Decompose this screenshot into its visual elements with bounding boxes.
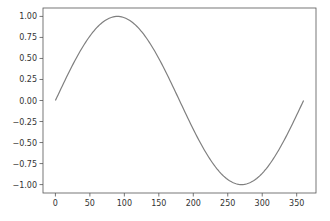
y-tick-label: 0.25: [19, 75, 37, 84]
y-tick-label: −0.25: [12, 118, 37, 127]
x-tick-label: 250: [220, 199, 235, 208]
x-tick-label: 350: [289, 199, 304, 208]
x-tick-label: 100: [117, 199, 132, 208]
y-tick-label: 0.75: [19, 33, 37, 42]
y-tick-label: −1.00: [12, 181, 37, 190]
x-tick-label: 200: [186, 199, 201, 208]
sine-line: [55, 16, 303, 184]
y-axis-ticks: 1.000.750.500.250.00−0.25−0.50−0.75−1.00: [12, 12, 43, 189]
y-tick-label: −0.75: [12, 160, 37, 169]
x-tick-label: 0: [53, 199, 58, 208]
x-tick-label: 300: [255, 199, 270, 208]
y-tick-label: 0.00: [19, 97, 37, 106]
y-tick-label: 0.50: [19, 54, 37, 63]
sine-chart: 1.000.750.500.250.00−0.25−0.50−0.75−1.00…: [0, 0, 330, 221]
x-tick-label: 150: [151, 199, 166, 208]
x-axis-ticks: 050100150200250300350: [53, 193, 304, 208]
y-tick-label: −0.50: [12, 139, 37, 148]
y-tick-label: 1.00: [19, 12, 37, 21]
x-tick-label: 50: [85, 199, 95, 208]
